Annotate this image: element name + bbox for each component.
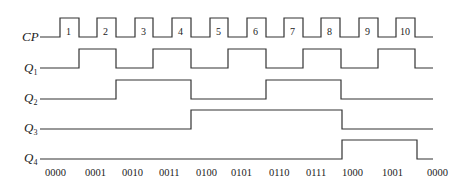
svg-text:Q1: Q1 (24, 60, 37, 77)
pulse-number: 6 (253, 26, 258, 37)
state-label: 1001 (382, 167, 403, 178)
signal-label-q2: Q2 (24, 90, 37, 107)
svg-text:Q3: Q3 (24, 120, 37, 137)
pulse-number: 5 (216, 26, 221, 37)
state-label: 0000 (427, 167, 448, 178)
q3-waveform (40, 110, 433, 129)
pulse-number: 4 (178, 26, 183, 37)
state-label: 0001 (85, 167, 106, 178)
signal-label-q3: Q3 (24, 120, 37, 137)
pulse-number: 2 (103, 26, 108, 37)
state-label: 0000 (45, 167, 66, 178)
pulse-number: 7 (290, 26, 295, 37)
state-labels: 0000 0001 0010 0011 0100 0101 0110 0111 … (45, 167, 448, 178)
svg-text:Q2: Q2 (24, 90, 37, 107)
timing-diagram: CP Q1 Q2 Q3 Q4 1 2 3 4 5 6 7 8 9 10 0000… (0, 0, 469, 186)
cp-waveform (40, 18, 433, 37)
pulse-number: 8 (327, 26, 332, 37)
signal-label-q1: Q1 (24, 60, 37, 77)
q4-waveform (40, 140, 433, 159)
pulse-number: 10 (400, 26, 410, 37)
state-label: 0100 (196, 167, 217, 178)
pulse-number: 3 (141, 26, 146, 37)
q2-waveform (40, 80, 433, 99)
signal-label-cp: CP (22, 29, 39, 44)
pulse-number: 1 (66, 26, 71, 37)
state-label: 0011 (159, 167, 180, 178)
state-label: 0110 (269, 167, 290, 178)
state-label: 1000 (342, 167, 363, 178)
q1-waveform (40, 49, 433, 68)
state-label: 0010 (122, 167, 143, 178)
pulse-number: 9 (365, 26, 370, 37)
state-label: 0101 (231, 167, 252, 178)
svg-text:Q4: Q4 (24, 150, 37, 167)
state-label: 0111 (306, 167, 326, 178)
signal-label-q4: Q4 (24, 150, 37, 167)
